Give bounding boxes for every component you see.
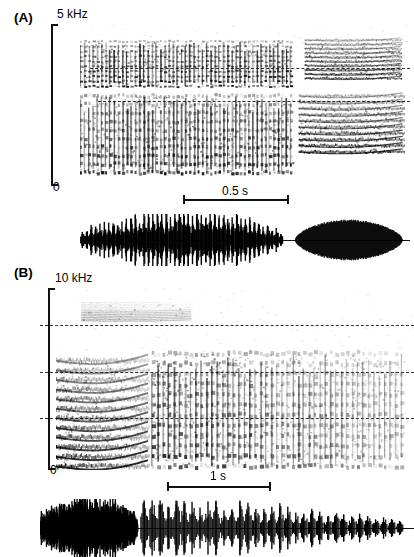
panel-a-frequency-axis bbox=[51, 24, 60, 186]
panel-a-axis-spine bbox=[51, 24, 53, 186]
panel-b-label: (B) bbox=[14, 266, 33, 280]
panel-b-axis-tick-top bbox=[48, 288, 55, 290]
panel-a-time-scalebar bbox=[183, 195, 289, 204]
panel-b-axis-spine bbox=[48, 288, 50, 470]
panel-a-label: (A) bbox=[14, 11, 33, 25]
panel-a-spectrogram bbox=[80, 24, 410, 184]
panel-a-axis-tick-top bbox=[51, 24, 58, 26]
panel-a-freq-max-label: 5 kHz bbox=[57, 8, 88, 20]
panel-b-scalebar-label: 1 s bbox=[168, 470, 268, 482]
panel-a-freq-min-label: 0 bbox=[53, 181, 60, 193]
panel-a-waveform bbox=[80, 212, 410, 268]
panel-b-freq-max-label: 10 kHz bbox=[55, 272, 92, 284]
panel-b-spectrogram bbox=[56, 288, 414, 470]
panel-b-waveform bbox=[40, 497, 414, 557]
panel-a-scalebar-cap-left bbox=[183, 195, 185, 204]
panel-b-scalebar-rule bbox=[167, 486, 271, 488]
panel-a-scalebar-rule bbox=[183, 199, 289, 201]
panel-a-scalebar-cap-right bbox=[287, 195, 289, 204]
panel-b-scalebar-cap-left bbox=[167, 482, 169, 491]
figure-canvas: (A) 5 kHz 0 0.5 s (B) 10 kHz 0 bbox=[0, 0, 414, 557]
panel-b-time-scalebar bbox=[167, 482, 271, 491]
panel-b-scalebar-cap-right bbox=[269, 482, 271, 491]
